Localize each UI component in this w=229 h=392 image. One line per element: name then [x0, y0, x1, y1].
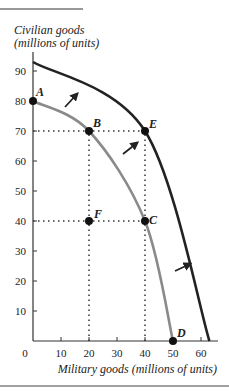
- x-axis-label: Military goods (millions of units): [57, 362, 217, 376]
- point-label-a: A: [35, 85, 44, 99]
- y-tick-label: 50: [15, 185, 27, 197]
- y-tick-label: 70: [15, 125, 27, 137]
- x-tick-label: 0: [22, 347, 28, 359]
- point-d: [169, 337, 177, 345]
- shifted-ppf-curve: [33, 62, 209, 341]
- y-tick-label: 60: [15, 155, 27, 167]
- point-e: [141, 127, 149, 135]
- x-tick-label: 50: [168, 347, 180, 359]
- x-tick-label: 10: [56, 347, 68, 359]
- x-tick-label: 60: [196, 347, 208, 359]
- point-c: [141, 217, 149, 225]
- shift-arrow-icon: [123, 143, 137, 154]
- y-tick-label: 20: [15, 275, 27, 287]
- y-tick-label: 90: [15, 65, 27, 77]
- y-tick-label: 30: [15, 245, 27, 257]
- x-tick-label: 30: [112, 347, 124, 359]
- point-label-b: B: [92, 116, 101, 130]
- point-f: [85, 217, 93, 225]
- point-label-f: F: [93, 207, 102, 221]
- point-b: [85, 127, 93, 135]
- point-label-e: E: [148, 117, 157, 131]
- shift-arrow-icon: [65, 94, 77, 107]
- y-tick-label: 40: [15, 215, 27, 227]
- y-tick-label: 10: [15, 305, 27, 317]
- x-tick-label: 40: [140, 347, 152, 359]
- x-tick-label: 20: [84, 347, 96, 359]
- ppf-chart: Civilian goods(millions of units)1020304…: [0, 0, 229, 392]
- shift-arrow-icon: [175, 264, 190, 271]
- point-label-d: D: [176, 326, 186, 340]
- y-axis-label-line2: (millions of units): [14, 36, 99, 50]
- point-label-c: C: [149, 213, 158, 227]
- y-axis-label-line1: Civilian goods: [14, 23, 85, 37]
- y-tick-label: 80: [15, 95, 27, 107]
